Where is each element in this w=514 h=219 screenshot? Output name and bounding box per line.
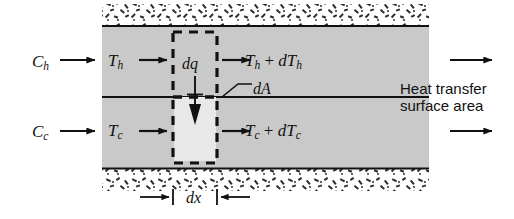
cold-outlet-temp-label: Tc + dTc bbox=[245, 121, 301, 142]
hot-outlet-temp-label: Th + dTh bbox=[245, 51, 302, 72]
surface-area-annotation: Heat transfer surface area bbox=[400, 80, 487, 114]
cold-capacity-label: Cc bbox=[32, 122, 48, 143]
insulation-top bbox=[102, 4, 429, 26]
cold-inlet-temp-label: Tc bbox=[108, 121, 123, 142]
insulation-bottom bbox=[102, 169, 429, 191]
hot-inlet-temp-label: Th bbox=[108, 51, 123, 72]
dA-label: dA bbox=[253, 80, 271, 98]
surface-area-line-2: surface area bbox=[400, 97, 487, 114]
dq-label: dq bbox=[182, 55, 198, 73]
dx-label: dx bbox=[186, 189, 201, 207]
hot-capacity-label: Ch bbox=[32, 52, 49, 73]
surface-area-line-1: Heat transfer bbox=[400, 80, 487, 97]
